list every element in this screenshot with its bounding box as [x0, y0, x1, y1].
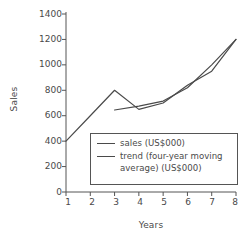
series-line-sales	[66, 39, 236, 141]
legend-item-trend: trend (four-year moving average) (US$000…	[97, 151, 223, 174]
legend-label: sales (US$000)	[120, 138, 185, 150]
line-chart: Sales 1400 1200 1000 800 600 400 200 0 1…	[0, 0, 246, 240]
x-axis-title: Years	[66, 220, 236, 230]
legend: sales (US$000) trend (four-year moving a…	[90, 133, 238, 185]
legend-item-sales: sales (US$000)	[97, 138, 185, 150]
x-axis-ticks	[66, 192, 236, 196]
y-axis-ticks	[62, 14, 66, 192]
legend-label: trend (four-year moving average) (US$000…	[120, 151, 223, 174]
legend-line-swatch-icon	[97, 152, 115, 162]
plot-area	[0, 0, 246, 240]
legend-line-swatch-icon	[97, 139, 115, 149]
series-line-trend	[115, 39, 236, 110]
